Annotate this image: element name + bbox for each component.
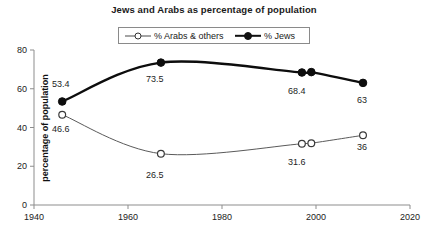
data-label-jews-1997: 68.4: [288, 86, 306, 96]
series-line-arabs: [62, 115, 363, 155]
data-label-jews-1967: 73.5: [146, 74, 164, 84]
series-points-jews[interactable]: [58, 59, 366, 105]
data-label-arabs-1997: 31.6: [288, 157, 306, 167]
x-tick-label: 1940: [24, 212, 44, 222]
data-point-arabs[interactable]: [308, 140, 315, 147]
y-tick-label: 40: [17, 123, 27, 133]
x-tick-label: 2000: [306, 212, 326, 222]
y-tick-label: 20: [17, 161, 27, 171]
data-label-arabs-2010: 36: [357, 142, 367, 152]
x-axis-ticks: 19401960198020002020: [24, 205, 420, 222]
y-tick-label: 0: [22, 200, 27, 210]
data-point-jews[interactable]: [58, 98, 66, 106]
x-tick-label: 2020: [400, 212, 420, 222]
y-axis-ticks: 806040200: [17, 45, 34, 210]
data-point-jews[interactable]: [308, 68, 316, 76]
y-axis-title: percentage of population: [40, 74, 50, 182]
chart-screenshot: Jews and Arabs as percentage of populati…: [0, 0, 428, 238]
plot-area: 806040200 19401960198020002020 percentag…: [0, 0, 428, 238]
y-tick-label: 60: [17, 84, 27, 94]
series-line-jews: [62, 62, 363, 102]
data-label-arabs-1967: 26.5: [146, 170, 164, 180]
y-tick-label: 80: [17, 45, 27, 55]
data-point-arabs[interactable]: [360, 132, 367, 139]
data-point-jews[interactable]: [359, 79, 367, 87]
data-point-arabs[interactable]: [299, 140, 306, 147]
data-label-jews-1946: 53.4: [52, 79, 70, 89]
x-tick-label: 1980: [212, 212, 232, 222]
data-label-arabs-1946: 46.6: [52, 124, 70, 134]
data-point-arabs[interactable]: [59, 111, 66, 118]
x-tick-label: 1960: [118, 212, 138, 222]
series-points-arabs[interactable]: [59, 111, 367, 157]
data-point-arabs[interactable]: [158, 150, 165, 157]
data-point-jews[interactable]: [298, 69, 306, 77]
data-point-jews[interactable]: [157, 59, 165, 67]
data-label-jews-2010: 63: [357, 95, 367, 105]
